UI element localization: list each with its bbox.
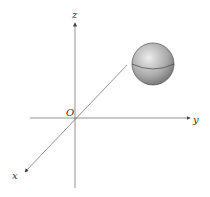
- origin-label: O: [66, 107, 74, 118]
- x-axis: [25, 65, 127, 172]
- sphere: [132, 43, 174, 85]
- x-label: x: [12, 170, 18, 181]
- y-label: y: [192, 114, 199, 125]
- coordinate-diagram: z y x O: [0, 0, 210, 197]
- z-label: z: [71, 9, 78, 20]
- axes-svg: z y x O: [0, 0, 210, 197]
